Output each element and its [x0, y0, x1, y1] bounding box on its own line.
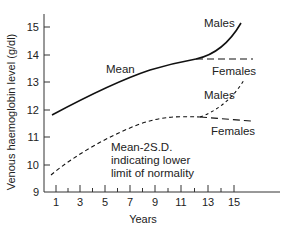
x-axis-title: Years — [129, 213, 157, 225]
y-tick-labels: 9 10 11 12 13 14 15 — [27, 21, 39, 198]
y-tick-label: 13 — [27, 76, 39, 88]
females-upper-annotation: Females — [212, 65, 256, 77]
sd-annotation-line1: Mean-2S.D. — [111, 141, 172, 153]
y-tick-label: 14 — [27, 49, 39, 61]
chart-svg: 9 10 11 12 13 14 15 1 — [0, 0, 281, 230]
x-tick-label: 1 — [53, 196, 59, 208]
y-axis-title: Venous haemoglobin level (g/dl) — [5, 34, 17, 191]
y-tick-label: 9 — [33, 186, 39, 198]
haemoglobin-chart: 9 10 11 12 13 14 15 1 — [0, 0, 281, 230]
x-tick-label: 11 — [175, 196, 186, 208]
x-tick-label: 9 — [152, 196, 158, 208]
x-tick-label: 13 — [202, 196, 214, 208]
y-tick-label: 12 — [27, 104, 39, 116]
females-lower-annotation: Females — [211, 125, 255, 137]
x-tick-label: 5 — [102, 196, 108, 208]
y-tick-label: 10 — [27, 159, 39, 171]
y-tick-label: 11 — [28, 131, 39, 143]
x-tick-labels: 1 3 5 7 9 11 13 15 — [53, 196, 240, 208]
x-tick-label: 3 — [77, 196, 83, 208]
mean-annotation: Mean — [106, 63, 135, 75]
x-tick-label: 7 — [127, 196, 133, 208]
sd-annotation-line3: limit of normality — [111, 167, 194, 179]
males-lower-annotation: Males — [204, 89, 235, 101]
males-upper-annotation: Males — [204, 17, 235, 29]
x-tick-label: 15 — [228, 196, 240, 208]
x-ticks — [56, 185, 234, 192]
y-ticks — [44, 27, 50, 165]
sd-annotation-line2: indicating lower — [111, 154, 190, 166]
y-tick-label: 15 — [27, 21, 39, 33]
mean-2sd-females-line — [200, 117, 251, 121]
